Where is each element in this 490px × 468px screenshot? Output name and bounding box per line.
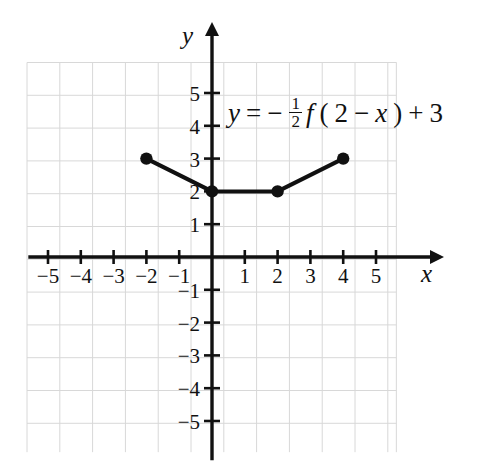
fraction-denominator: 2 <box>289 112 302 130</box>
y-tick-label: 5 <box>190 82 201 106</box>
data-point <box>271 185 283 197</box>
x-tick-label: −2 <box>135 264 157 288</box>
equation-lhs: y <box>228 100 240 127</box>
one-half-fraction: 1 2 <box>289 95 302 131</box>
axes <box>28 22 444 460</box>
equation-annotation: y = − 1 2 f ( 2 − x ) + 3 <box>228 96 443 132</box>
equation-plus: + <box>408 100 423 127</box>
equation-inner-two: 2 <box>334 100 348 127</box>
y-tick-label: −5 <box>178 410 200 434</box>
y-tick-label: 4 <box>190 115 201 139</box>
y-axis-label: y <box>182 22 193 50</box>
coordinate-plane: −5−4−3−2−112345−5−4−3−2−112345 <box>0 0 490 468</box>
x-tick-label: −4 <box>70 264 93 288</box>
equation-equals: = <box>246 100 261 127</box>
x-tick-label: −5 <box>37 264 59 288</box>
y-tick-label: −1 <box>178 279 200 303</box>
x-tick-label: 3 <box>305 264 316 288</box>
x-tick-label: 5 <box>371 264 382 288</box>
data-point <box>206 185 218 197</box>
equation-inner-x: x <box>375 100 387 127</box>
y-tick-label: 1 <box>190 213 201 237</box>
x-tick-label: −3 <box>102 264 124 288</box>
data-point <box>337 152 349 164</box>
y-tick-label: −3 <box>178 344 200 368</box>
x-tick-label: 2 <box>272 264 283 288</box>
graph-figure: −5−4−3−2−112345−5−4−3−2−112345 y x y = −… <box>0 0 490 468</box>
x-tick-label: 1 <box>240 264 251 288</box>
y-tick-label: −2 <box>178 312 200 336</box>
fraction-numerator: 1 <box>289 95 302 112</box>
function-curve <box>146 159 343 192</box>
equation-open-paren: ( <box>319 100 328 127</box>
x-tick-label: 4 <box>338 264 349 288</box>
equation-function-f: f <box>306 100 314 127</box>
x-axis-label: x <box>421 260 432 288</box>
equation-constant: 3 <box>429 100 443 127</box>
equation-close-paren: ) <box>393 100 402 127</box>
y-tick-label: −4 <box>178 377 201 401</box>
equation-inner-minus: − <box>354 100 369 127</box>
equation-minus: − <box>267 100 282 127</box>
y-tick-label: 3 <box>190 148 201 172</box>
data-point <box>140 152 152 164</box>
